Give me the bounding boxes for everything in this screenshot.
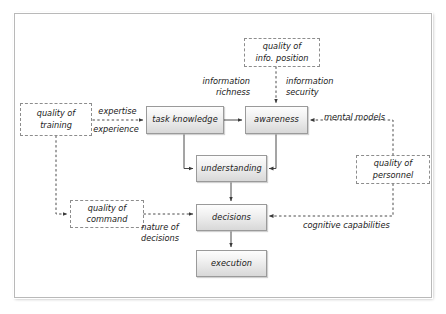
node-understanding[interactable]: understanding	[196, 155, 267, 182]
connector-personnel-to-awareness	[310, 120, 393, 156]
factor-quality-of-info-position-label: quality of info. position	[256, 41, 309, 63]
edge-label-information-security: information security	[286, 76, 350, 98]
factor-quality-of-training-label: quality of training	[37, 108, 76, 130]
edge-label-mental-models: mental models	[324, 112, 392, 123]
factor-quality-of-command-label: quality of command	[87, 203, 128, 225]
edge-label-nature-of-decisions: nature of decisions	[131, 222, 189, 244]
connector-training-to-command	[56, 136, 67, 215]
edge-label-expertise: expertise	[93, 106, 142, 117]
node-awareness[interactable]: awareness	[245, 106, 308, 134]
factor-quality-of-personnel-label: quality of personnel	[373, 158, 414, 180]
node-understanding-label: understanding	[201, 164, 262, 173]
node-execution[interactable]: execution	[196, 250, 267, 277]
node-decisions[interactable]: decisions	[196, 204, 267, 231]
edge-label-experience: experience	[90, 124, 142, 135]
diagram-canvas: task knowledge awareness understanding d…	[0, 0, 446, 314]
node-decisions-label: decisions	[212, 213, 251, 222]
node-execution-label: execution	[211, 259, 252, 268]
node-awareness-label: awareness	[254, 115, 299, 124]
edge-label-information-richness: information richness	[190, 76, 250, 98]
connector-personnel-to-decisions	[269, 184, 393, 217]
factor-quality-of-info-position[interactable]: quality of info. position	[244, 38, 320, 67]
factor-quality-of-personnel[interactable]: quality of personnel	[356, 155, 430, 184]
node-task-knowledge-label: task knowledge	[152, 115, 218, 124]
connector-task-knowledge-to-understanding	[184, 135, 193, 169]
connector-awareness-to-understanding	[269, 135, 276, 169]
factor-quality-of-training[interactable]: quality of training	[20, 103, 92, 136]
edge-label-cognitive-capabilities: cognitive capabilities	[303, 220, 395, 231]
node-task-knowledge[interactable]: task knowledge	[146, 106, 224, 134]
